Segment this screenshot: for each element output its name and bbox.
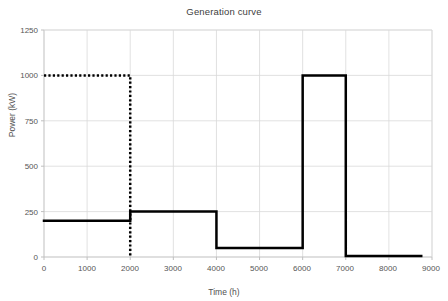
axis-lines [41, 30, 432, 260]
generation-curve-chart: Generation curve Power (kW) Time (h) 125… [0, 0, 448, 301]
plot-area [0, 0, 448, 301]
gridlines [44, 30, 432, 257]
